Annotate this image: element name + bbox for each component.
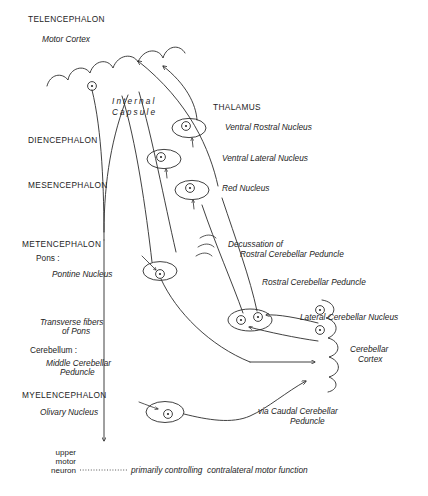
region-label-diencephalon: DIENCEPHALON	[28, 135, 98, 145]
region-label-thalamus: THALAMUS	[213, 102, 261, 112]
olivary-nucleus	[139, 381, 306, 423]
label-motor-cortex: Motor Cortex	[42, 34, 91, 44]
label-transverse-fibers-line2: of Pons	[62, 326, 90, 336]
label-cerebellar-cortex-line1: Cerebellar	[350, 344, 390, 354]
label-ventral-lateral-nucleus: Ventral Lateral Nucleus	[222, 153, 308, 163]
red-nucleus	[175, 180, 209, 209]
internal-capsule-line2: Capsule	[112, 107, 157, 117]
structure-labels-left: Motor Cortex Pons : Pontine Nucleus Tran…	[30, 34, 112, 417]
label-ventral-rostral-nucleus: Ventral Rostral Nucleus	[225, 122, 312, 132]
label-decussation-line2: Rostral Cerebellar Peduncle	[240, 249, 344, 259]
label-via-caudal-cerebellar-peduncle-line1: via Caudal Cerebellar	[258, 406, 339, 416]
internal-capsule-line1: Internal	[112, 96, 156, 106]
neuroanatomy-diagram: TELENCEPHALON DIENCEPHALON MESENCEPHALON…	[0, 0, 428, 496]
umn-line3: neuron	[51, 466, 76, 475]
diagram-caption: primarily controlling contralateral moto…	[130, 465, 308, 475]
label-decussation-line1: Decussation of	[228, 239, 285, 249]
region-labels: TELENCEPHALON DIENCEPHALON MESENCEPHALON…	[22, 14, 108, 400]
label-red-nucleus: Red Nucleus	[222, 183, 270, 193]
label-lateral-cerebellar-nucleus: Lateral Cerebellar Nucleus	[300, 312, 398, 322]
umn-line1: upper	[56, 448, 77, 457]
upper-motor-neuron-label: upper motor neuron	[51, 448, 128, 475]
internal-capsule-label: Internal Capsule	[112, 96, 157, 117]
label-rostral-cerebellar-peduncle: Rostral Cerebellar Peduncle	[262, 277, 366, 287]
decussation-marks	[196, 235, 216, 256]
motor-cortex-neuron	[88, 82, 97, 91]
label-middle-cerebellar-peduncle-line2: Peduncle	[60, 367, 95, 377]
ventral-rostral-nucleus	[172, 118, 206, 147]
umn-line2: motor	[56, 457, 77, 466]
pontine-nucleus	[142, 256, 250, 362]
region-label-mesencephalon: MESENCEPHALON	[28, 180, 108, 190]
label-pontine-nucleus: Pontine Nucleus	[52, 269, 112, 279]
right-column-labels: THALAMUS Ventral Rostral Nucleus Ventral…	[213, 102, 398, 426]
internal-capsule-fibers	[122, 61, 218, 262]
label-cerebellar-cortex-line2: Cortex	[358, 354, 383, 364]
label-pons: Pons :	[36, 253, 60, 263]
label-via-caudal-cerebellar-peduncle-line2: Peduncle	[290, 416, 325, 426]
region-label-metencephalon: METENCEPHALON	[22, 239, 101, 249]
label-cerebellum: Cerebellum :	[30, 345, 77, 355]
ventral-lateral-nucleus	[147, 149, 181, 178]
region-label-myelencephalon: MYELENCEPHALON	[22, 390, 107, 400]
region-label-telencephalon: TELENCEPHALON	[28, 14, 105, 24]
label-olivary-nucleus: Olivary Nucleus	[40, 407, 98, 417]
diagram-page: TELENCEPHALON DIENCEPHALON MESENCEPHALON…	[0, 0, 428, 496]
